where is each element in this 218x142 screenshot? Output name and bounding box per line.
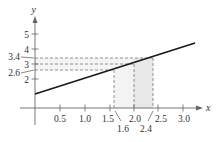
- x-mark-1-6: 1.6: [117, 124, 129, 134]
- svg-text:1.0: 1.0: [79, 114, 91, 124]
- y-mark-2-6: 2.6: [8, 68, 20, 78]
- svg-text:3: 3: [24, 60, 29, 70]
- y-mark-3-4: 3.4: [8, 52, 20, 62]
- x-tick-labels: 0.5 1.0 1.5 2.0 2.5 3.0: [54, 114, 190, 124]
- svg-text:2.5: 2.5: [155, 114, 167, 124]
- x-axis-label: x: [205, 102, 211, 113]
- svg-text:2.0: 2.0: [129, 114, 141, 124]
- shade-vertical-band-right: [134, 58, 153, 108]
- svg-text:4: 4: [24, 45, 29, 55]
- shade-vertical-band-left: [114, 62, 134, 108]
- svg-text:2: 2: [24, 75, 29, 85]
- svg-text:1.5: 1.5: [102, 114, 114, 124]
- y-axis-arrow-icon: [33, 16, 38, 23]
- x-axis-arrow-icon: [196, 106, 203, 111]
- svg-text:0.5: 0.5: [54, 114, 66, 124]
- x-mark-2-4: 2.4: [140, 124, 152, 134]
- svg-text:5: 5: [24, 30, 29, 40]
- line-chart: x y 0.5 1.0 1.5 2.0 2.5 3.0 1.6 2.4 5 4: [0, 0, 218, 142]
- svg-text:3.0: 3.0: [178, 114, 190, 124]
- y-axis-label: y: [31, 4, 37, 15]
